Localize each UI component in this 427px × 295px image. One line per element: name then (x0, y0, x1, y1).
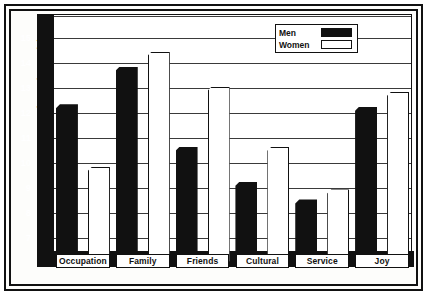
legend-label-women: Women (279, 40, 321, 50)
bar-body (387, 92, 409, 267)
y-tick-label: 15 (11, 31, 31, 42)
category-label-friends: Friends (176, 254, 230, 268)
y-tick-label: 12 (11, 106, 31, 117)
y-tick-label: 10 (11, 156, 31, 167)
gridline (54, 88, 411, 89)
bar-friends-women (208, 87, 230, 267)
y-tick-label: 8 (11, 206, 31, 217)
bar-body (56, 104, 78, 267)
category-label-service: Service (295, 254, 349, 268)
bar-body (355, 107, 377, 267)
category-label-joy: Joy (355, 254, 409, 268)
category-label-cultural: Cultural (236, 254, 290, 268)
y-tick-label: 7 (11, 231, 31, 242)
bar-joy-women (387, 92, 409, 267)
bar-occupation-women (88, 167, 110, 267)
y-tick-label: 11 (11, 131, 31, 142)
bar-body (88, 167, 110, 267)
gridline (54, 63, 411, 64)
bar-body (208, 87, 230, 267)
bar-friends-men (176, 147, 198, 267)
bar-cultural-women (267, 147, 289, 267)
legend: Men Women (275, 24, 358, 53)
category-label-occupation: Occupation (56, 254, 110, 268)
bar-joy-men (355, 107, 377, 267)
legend-swatch-men-icon (321, 28, 352, 37)
bar-body (267, 147, 289, 267)
gridline (54, 16, 411, 17)
bar-family-men (116, 67, 138, 267)
y-tick-label: 14 (11, 56, 31, 67)
legend-entry-men: Men (279, 27, 354, 38)
bar-occupation-men (56, 104, 78, 267)
bar-body (176, 147, 198, 267)
y-axis-bar (37, 14, 53, 257)
y-tick-label: 9 (11, 181, 31, 192)
y-tick-label: 13 (11, 81, 31, 92)
bar-body (148, 52, 170, 267)
figure: Average Scores (21-point scale) 78910111… (0, 0, 427, 295)
bar-family-women (148, 52, 170, 267)
legend-swatch-women-icon (321, 40, 352, 49)
bar-chart: Average Scores (21-point scale) 78910111… (11, 11, 416, 284)
legend-entry-women: Women (279, 39, 354, 50)
category-label-family: Family (116, 254, 170, 268)
legend-label-men: Men (279, 28, 321, 38)
bar-body (116, 67, 138, 267)
x-axis-base-corner (37, 251, 55, 267)
